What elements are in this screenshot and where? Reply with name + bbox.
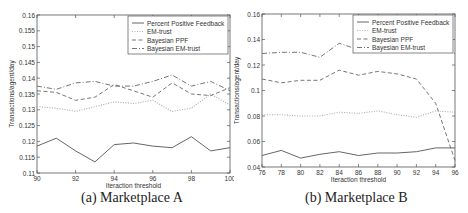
x-tick-label: 92	[413, 169, 421, 176]
legend-entry: EM-trust	[372, 27, 397, 34]
y-tick-label: 0.16	[22, 12, 35, 19]
legend-entry: EM-trust	[147, 28, 172, 35]
y-axis-label: Transactions/agent/day	[8, 60, 16, 128]
legend-entry: Bayesian EM-trust	[147, 45, 200, 53]
x-tick-label: 78	[278, 169, 286, 176]
y-tick-label: 0.1	[251, 87, 260, 94]
y-tick-label: 0.12	[22, 138, 35, 145]
y-tick-label: 0.16	[247, 11, 260, 18]
x-tick-label: 96	[149, 175, 157, 182]
x-tick-label: 84	[336, 169, 344, 176]
legend-entry: Bayesian PPF	[147, 37, 188, 45]
plot-marketplace-a: 0.110.1150.120.1250.130.1350.140.1450.15…	[0, 0, 234, 190]
y-tick-label: 0.14	[22, 75, 35, 82]
x-tick-label: 94	[432, 169, 440, 176]
y-tick-label: 0.06	[247, 138, 260, 145]
y-tick-label: 0.15	[22, 43, 35, 50]
x-tick-label: 92	[72, 175, 80, 182]
legend-entry: Percent Positive Feedback	[372, 19, 450, 26]
x-tick-label: 98	[188, 175, 196, 182]
y-tick-label: 0.125	[19, 122, 36, 129]
x-tick-label: 88	[374, 169, 382, 176]
x-tick-label: 100	[225, 175, 234, 182]
x-axis-label: Iteraction threshold	[106, 182, 162, 189]
y-tick-label: 0.14	[247, 36, 260, 43]
y-tick-label: 0.12	[247, 62, 260, 69]
x-tick-label: 94	[111, 175, 119, 182]
x-tick-label: 80	[297, 169, 305, 176]
x-tick-label: 90	[393, 169, 401, 176]
y-tick-label: 0.08	[247, 113, 260, 120]
x-tick-label: 90	[33, 175, 41, 182]
x-tick-label: 96	[451, 169, 459, 176]
y-tick-label: 0.145	[19, 59, 36, 66]
legend-entry: Percent Positive Feedback	[147, 20, 225, 27]
x-axis-label: Iteraction threshold	[331, 176, 387, 183]
y-tick-label: 0.13	[22, 106, 35, 113]
legend-entry: Bayesian EM-trust	[372, 44, 425, 52]
caption-marketplace-a: (a) Marketplace A	[81, 190, 183, 206]
y-tick-label: 0.155	[19, 27, 36, 34]
x-tick-label: 82	[316, 169, 324, 176]
y-tick-label: 0.135	[19, 91, 36, 98]
y-axis-label: Transactions/agent/day	[234, 56, 241, 124]
x-tick-label: 76	[258, 169, 266, 176]
plot-marketplace-b: 0.040.060.080.10.120.140.167678808284868…	[234, 0, 468, 190]
chart-marketplace-b: 0.040.060.080.10.120.140.167678808284868…	[234, 0, 468, 213]
y-tick-label: 0.115	[19, 154, 35, 161]
legend-entry: Bayesian PPF	[372, 36, 413, 44]
chart-marketplace-a: 0.110.1150.120.1250.130.1350.140.1450.15…	[0, 0, 234, 213]
x-tick-label: 86	[355, 169, 363, 176]
caption-marketplace-b: (b) Marketplace B	[305, 190, 408, 206]
